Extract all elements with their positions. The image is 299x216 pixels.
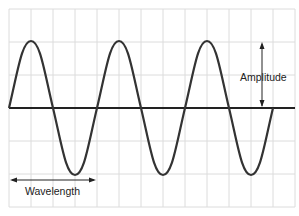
wavelength-label: Wavelength xyxy=(25,185,80,197)
amplitude-label: Amplitude xyxy=(240,71,287,83)
sine-wave-diagram: Amplitude Wavelength xyxy=(0,0,299,216)
